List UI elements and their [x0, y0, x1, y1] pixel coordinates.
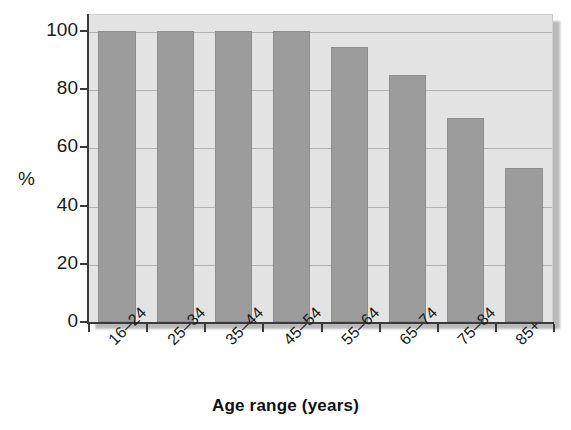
x-axis-tick	[146, 324, 148, 332]
y-axis-tick	[80, 321, 87, 323]
x-axis-tick	[495, 324, 497, 332]
y-axis-tick-label: 20	[0, 252, 78, 274]
x-axis-title: Age range (years)	[0, 396, 571, 416]
y-axis-tick	[80, 146, 87, 148]
bar	[505, 168, 542, 322]
bar	[157, 31, 194, 322]
y-axis-tick	[80, 263, 87, 265]
bar	[331, 47, 368, 322]
y-axis-tick-label: 100	[0, 19, 78, 41]
y-axis-line	[87, 14, 89, 323]
y-axis-title: %	[18, 168, 35, 190]
bar	[98, 31, 135, 322]
x-axis-tick	[262, 324, 264, 332]
x-axis-tick	[379, 324, 381, 332]
bar	[389, 75, 426, 322]
y-axis-tick	[80, 88, 87, 90]
y-axis-tick-label: 0	[0, 310, 78, 332]
x-axis-tick	[553, 324, 555, 332]
x-axis-tick	[88, 324, 90, 332]
y-axis-tick-label: 40	[0, 194, 78, 216]
bars-layer	[88, 15, 552, 322]
y-axis-tick-label: 60	[0, 135, 78, 157]
bar	[215, 31, 252, 322]
y-axis-tick-label: 80	[0, 77, 78, 99]
x-axis-tick	[204, 324, 206, 332]
y-axis-tick	[80, 205, 87, 207]
y-axis-tick	[80, 30, 87, 32]
bar	[447, 118, 484, 322]
bar	[273, 31, 310, 322]
x-axis-tick	[321, 324, 323, 332]
bar-chart: 020406080100 16–2425–3435–4445–5455–6465…	[0, 0, 571, 430]
x-axis-tick	[437, 324, 439, 332]
plot-panel	[88, 14, 553, 322]
